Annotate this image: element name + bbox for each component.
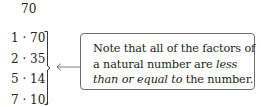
right-brace-icon [44, 31, 51, 105]
note-line-3-text: the number. [182, 73, 253, 86]
note-emphasis-than-or-equal-to: than or equal to [93, 73, 182, 86]
note-callout: Note that all of the factors of a natura… [80, 33, 255, 90]
note-emphasis-less: less [216, 58, 237, 71]
note-line-2-text: a natural number are [93, 58, 216, 71]
left-arrow-icon [56, 62, 80, 72]
note-line-3: than or equal to the number. [93, 72, 254, 88]
note-line-1: Note that all of the factors of [93, 41, 254, 57]
number-label: 70 [21, 2, 36, 16]
note-line-2: a natural number are less [93, 57, 254, 73]
